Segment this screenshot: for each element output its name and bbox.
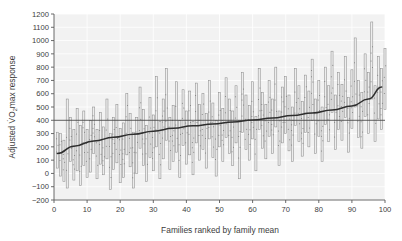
range-bar xyxy=(252,82,254,139)
member-dot xyxy=(193,152,194,153)
member-dot xyxy=(102,160,103,161)
member-dot xyxy=(230,110,231,111)
member-dot xyxy=(110,156,111,157)
member-dot xyxy=(162,115,163,116)
member-dot xyxy=(377,75,378,76)
member-dot xyxy=(59,160,60,161)
member-dot xyxy=(144,143,145,144)
member-dot xyxy=(301,138,302,139)
member-dot xyxy=(129,152,130,153)
member-dot xyxy=(213,126,214,127)
member-dot xyxy=(73,164,74,165)
range-bar xyxy=(218,92,220,146)
member-dot xyxy=(351,101,352,102)
member-dot xyxy=(265,140,266,141)
range-bar xyxy=(175,82,177,152)
range-bar xyxy=(195,83,197,143)
member-dot xyxy=(145,153,146,154)
member-dot xyxy=(159,154,160,155)
y-tick-label: 1000 xyxy=(32,36,49,45)
member-dot xyxy=(266,130,267,131)
member-dot xyxy=(167,108,168,109)
x-tick-label: 40 xyxy=(182,205,190,214)
member-dot xyxy=(312,104,313,105)
member-dot xyxy=(145,138,146,139)
member-dot xyxy=(172,135,173,136)
member-dot xyxy=(69,128,70,129)
member-dot xyxy=(286,96,287,97)
member-dot xyxy=(71,148,72,149)
member-dot xyxy=(182,118,183,119)
member-dot xyxy=(382,80,383,81)
member-dot xyxy=(122,153,123,154)
member-dot xyxy=(298,98,299,99)
range-bar xyxy=(212,103,214,157)
range-bar xyxy=(83,111,85,165)
member-dot xyxy=(367,92,368,93)
x-tick-label: 70 xyxy=(281,205,289,214)
range-bar xyxy=(245,95,247,149)
member-dot xyxy=(222,140,223,141)
member-dot xyxy=(218,115,219,116)
member-dot xyxy=(361,136,362,137)
x-tick-label: 50 xyxy=(215,205,223,214)
member-dot xyxy=(255,153,256,154)
range-bar xyxy=(139,87,141,148)
member-dot xyxy=(311,93,312,94)
member-dot xyxy=(190,122,191,123)
member-dot xyxy=(198,135,199,136)
member-dot xyxy=(169,140,170,141)
member-dot xyxy=(289,139,290,140)
member-dot xyxy=(160,164,161,165)
y-tick-label: 100 xyxy=(36,156,49,165)
member-dot xyxy=(216,149,217,150)
member-dot xyxy=(232,137,233,138)
member-dot xyxy=(124,149,125,150)
member-dot xyxy=(253,111,254,112)
x-tick-label: 10 xyxy=(83,205,91,214)
member-dot xyxy=(195,111,196,112)
member-dot xyxy=(190,105,191,106)
member-dot xyxy=(269,112,270,113)
member-dot xyxy=(341,106,342,107)
member-dot xyxy=(308,132,309,133)
y-tick-label: 300 xyxy=(36,129,49,138)
member-dot xyxy=(73,159,74,160)
member-dot xyxy=(152,152,153,153)
member-dot xyxy=(322,126,323,127)
member-dot xyxy=(251,101,252,102)
member-dot xyxy=(258,115,259,116)
member-dot xyxy=(119,154,120,155)
member-dot xyxy=(140,119,141,120)
member-dot xyxy=(127,105,128,106)
member-dot xyxy=(311,70,312,71)
member-dot xyxy=(251,116,252,117)
member-dot xyxy=(341,121,342,122)
range-bar xyxy=(126,94,128,155)
member-dot xyxy=(302,143,303,144)
range-bar xyxy=(321,107,323,161)
member-dot xyxy=(99,130,100,131)
member-dot xyxy=(238,136,239,137)
member-dot xyxy=(374,112,375,113)
range-bar xyxy=(338,72,340,129)
member-dot xyxy=(110,177,111,178)
member-dot xyxy=(179,160,180,161)
member-dot xyxy=(306,86,307,87)
member-dot xyxy=(235,117,236,118)
member-dot xyxy=(175,106,176,107)
member-dot xyxy=(314,133,315,134)
member-dot xyxy=(382,103,383,104)
range-bar xyxy=(169,118,171,170)
member-dot xyxy=(301,118,302,119)
range-bar xyxy=(60,134,62,177)
member-dot xyxy=(249,144,250,145)
member-dot xyxy=(94,136,95,137)
range-bar xyxy=(132,132,134,188)
member-dot xyxy=(139,107,140,108)
range-bar xyxy=(255,116,257,170)
member-dot xyxy=(319,110,320,111)
range-bar xyxy=(202,94,204,150)
y-tick-label: 1200 xyxy=(32,10,49,19)
member-dot xyxy=(354,62,355,63)
